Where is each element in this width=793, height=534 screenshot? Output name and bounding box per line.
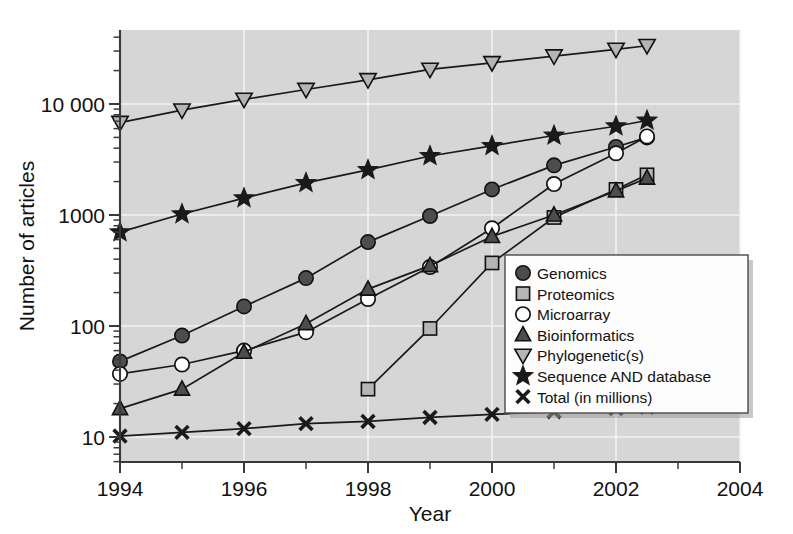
data-point-filled-circle-icon: [547, 158, 561, 172]
x-tick-label: 2000: [469, 477, 516, 500]
data-point-open-circle-icon: [547, 177, 561, 191]
legend-item-total-in-millions[interactable]: Total (in millions): [517, 389, 653, 406]
legend[interactable]: GenomicsProteomicsMicroarrayBioinformati…: [505, 255, 753, 418]
data-point-filled-circle-icon: [237, 299, 251, 313]
x-tick-label: 1994: [97, 477, 144, 500]
data-point-filled-square-icon: [361, 383, 374, 396]
x-tick-label: 2002: [593, 477, 640, 500]
data-point-open-circle-icon: [175, 357, 189, 371]
y-tick-label: 10: [82, 426, 105, 449]
legend-marker-filled-circle-icon: [516, 266, 530, 280]
x-tick-label: 2004: [717, 477, 764, 500]
data-point-filled-square-icon: [485, 256, 498, 269]
data-point-filled-circle-icon: [299, 271, 313, 285]
x-tick-label: 1998: [345, 477, 392, 500]
legend-marker-filled-square-icon: [516, 287, 529, 300]
legend-label: Proteomics: [537, 286, 615, 303]
y-axis-title: Number of articles: [15, 161, 38, 331]
legend-label: Genomics: [537, 265, 607, 282]
legend-item-sequence-and-database[interactable]: Sequence AND database: [513, 366, 711, 385]
y-tick-label: 100: [70, 315, 105, 338]
figure-container: 10100100010 000199419961998200020022004 …: [0, 0, 793, 534]
legend-label: Phylogenetic(s): [537, 347, 644, 364]
legend-label: Sequence AND database: [537, 368, 711, 385]
data-point-open-circle-icon: [609, 146, 623, 160]
data-point-filled-circle-icon: [423, 209, 437, 223]
data-point-filled-circle-icon: [485, 182, 499, 196]
data-point-open-circle-icon: [640, 129, 654, 143]
legend-label: Total (in millions): [537, 389, 652, 406]
y-tick-label: 1000: [58, 204, 105, 227]
legend-marker-open-circle-icon: [516, 307, 530, 321]
line-chart: 10100100010 000199419961998200020022004 …: [0, 0, 793, 534]
data-point-filled-circle-icon: [361, 235, 375, 249]
y-tick-label: 10 000: [41, 93, 105, 116]
data-point-filled-square-icon: [423, 322, 436, 335]
x-axis-title: Year: [409, 502, 451, 525]
legend-label: Microarray: [537, 306, 610, 323]
data-point-filled-circle-icon: [175, 328, 189, 342]
x-tick-label: 1996: [221, 477, 268, 500]
legend-label: Bioinformatics: [537, 327, 635, 344]
